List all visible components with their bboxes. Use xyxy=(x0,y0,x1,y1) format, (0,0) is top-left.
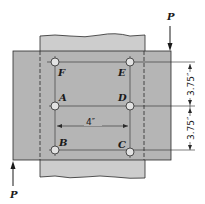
bolted-joint-diagram: F E A D B C 4″ 3.75″ 3.75″ xyxy=(0,0,205,204)
dimension-lower-label: 3.75″ xyxy=(186,116,196,140)
svg-text:A: A xyxy=(58,92,67,103)
svg-text:P: P xyxy=(9,189,18,200)
load-top: P xyxy=(166,11,175,51)
arrow-down-icon xyxy=(168,43,173,51)
svg-text:E: E xyxy=(117,67,126,78)
load-bottom: P xyxy=(9,161,18,200)
svg-text:F: F xyxy=(57,67,66,78)
horizontal-plate xyxy=(13,51,171,160)
dimension-vertical: 3.75″ 3.75″ xyxy=(183,64,197,150)
arrow-up-icon xyxy=(11,161,16,169)
svg-text:D: D xyxy=(117,92,127,103)
svg-text:4″: 4″ xyxy=(86,117,96,127)
dimension-upper-label: 3.75″ xyxy=(186,72,196,96)
svg-text:B: B xyxy=(58,137,67,148)
svg-text:C: C xyxy=(118,139,126,150)
svg-text:P: P xyxy=(166,11,175,22)
